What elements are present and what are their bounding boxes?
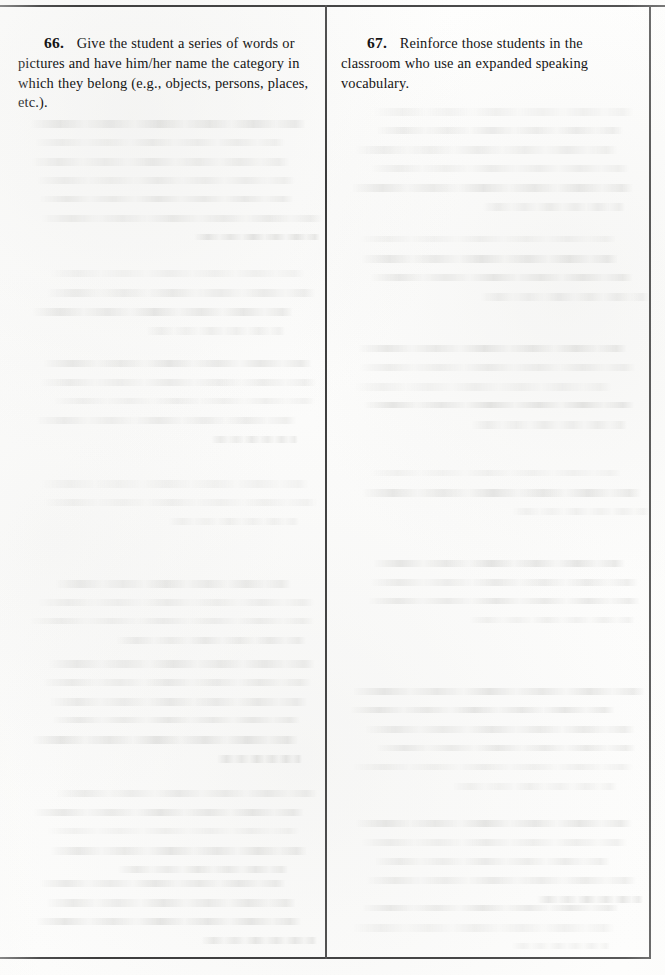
list-item: 66. Give the student a series of words o…: [0, 19, 325, 112]
item-number: 67.: [367, 34, 396, 51]
item-number: 66.: [44, 34, 73, 51]
frame-right-rule: [649, 5, 651, 959]
left-column: 66. Give the student a series of words o…: [0, 5, 325, 957]
list-item: 67. Reinforce those students in the clas…: [327, 19, 649, 93]
right-column: 67. Reinforce those students in the clas…: [327, 5, 649, 957]
scanned-document-page: 66. Give the student a series of words o…: [0, 0, 665, 975]
